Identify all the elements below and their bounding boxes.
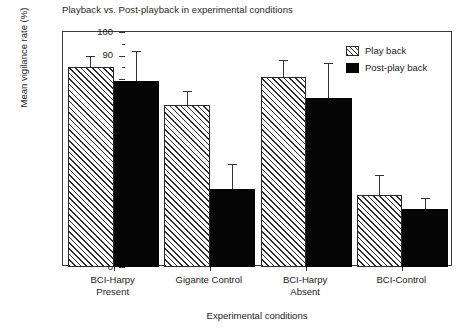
- error-bar-3-2: [306, 63, 352, 98]
- bar-chart-figure: Playback vs. Post-playback in experiment…: [0, 0, 474, 329]
- error-bar-cap: [132, 51, 141, 52]
- legend-swatch-playback: [346, 46, 359, 56]
- error-bar-cap: [279, 60, 288, 61]
- error-bar-1-2: [114, 51, 160, 82]
- bar-1-2: [114, 81, 160, 267]
- error-bar-cap: [421, 198, 430, 199]
- error-bar-stem: [379, 175, 380, 195]
- error-bar-stem: [283, 60, 284, 76]
- legend-item-2: Post-play back: [346, 60, 466, 75]
- error-bar-stem: [90, 56, 91, 68]
- legend-item-1: Play back: [346, 43, 466, 58]
- error-bar-3-1: [261, 60, 307, 76]
- x-category-line: Absent: [245, 286, 365, 298]
- y-minor-tick-mark: [122, 44, 126, 45]
- x-axis-label: Experimental conditions: [62, 310, 452, 321]
- x-category-line: Present: [53, 286, 173, 298]
- error-bar-stem: [425, 198, 426, 210]
- legend-swatch-postplayback: [346, 63, 359, 73]
- y-tick-mark: [119, 32, 125, 33]
- x-category-line: BCI-Control: [341, 274, 461, 286]
- plot-area: 0102030405060708090100 Play backPost-pla…: [62, 31, 452, 266]
- error-bar-cap: [324, 63, 333, 64]
- bar-2-1: [164, 105, 210, 267]
- bar-2-2: [210, 189, 256, 267]
- error-bar-4-1: [357, 175, 403, 195]
- legend-label: Post-play back: [365, 62, 427, 73]
- error-bar-stem: [328, 63, 329, 98]
- bar-1-1: [68, 67, 114, 267]
- legend-label: Play back: [365, 45, 406, 56]
- error-bar-4-2: [402, 198, 448, 210]
- y-tick-mark: [119, 267, 125, 268]
- x-category-label-4: BCI-Control: [341, 274, 461, 286]
- error-bar-stem: [136, 51, 137, 82]
- chart-legend: Play backPost-play back: [346, 43, 466, 77]
- error-bar-stem: [232, 164, 233, 190]
- bar-3-1: [261, 77, 307, 267]
- error-bar-cap: [375, 175, 384, 176]
- bar-4-2: [402, 209, 448, 267]
- bar-4-1: [357, 195, 403, 267]
- error-bar-cap: [86, 56, 95, 57]
- error-bar-stem: [187, 91, 188, 105]
- error-bar-2-2: [210, 164, 256, 190]
- error-bar-cap: [183, 91, 192, 92]
- error-bar-1-1: [68, 56, 114, 68]
- chart-title: Playback vs. Post-playback in experiment…: [62, 4, 293, 15]
- error-bar-cap: [228, 164, 237, 165]
- error-bar-2-1: [164, 91, 210, 105]
- y-tick-label: 100: [97, 26, 113, 37]
- y-axis-label: Mean vigilance rate (%): [18, 0, 29, 133]
- bar-3-2: [306, 98, 352, 267]
